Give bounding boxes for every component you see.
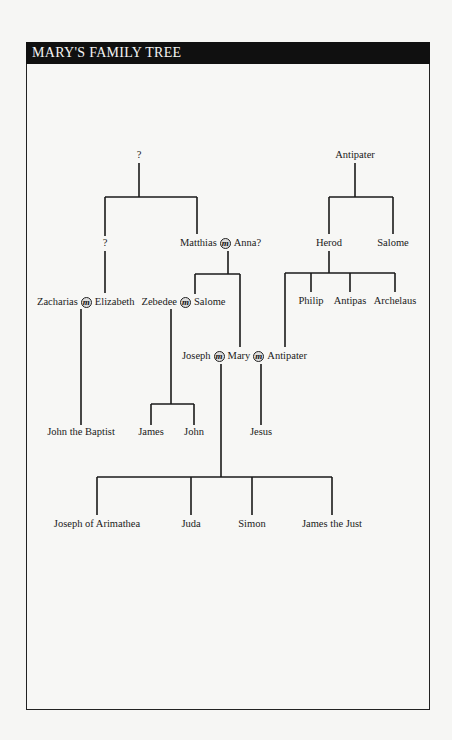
marriage-icon: m bbox=[81, 297, 92, 308]
node-archelaus: Archelaus bbox=[374, 295, 417, 307]
node-matthias: Matthias bbox=[180, 237, 217, 249]
node-john-the-baptist: John the Baptist bbox=[47, 426, 115, 438]
node-salome: Salome bbox=[194, 296, 226, 308]
node-anna: Anna? bbox=[234, 237, 261, 249]
marriage-icon: m bbox=[214, 351, 225, 362]
marriage-icon: m bbox=[253, 351, 264, 362]
node-joseph-of-arimathea: Joseph of Arimathea bbox=[54, 518, 140, 530]
node-james-the-just: James the Just bbox=[302, 518, 362, 530]
node-elizabeth: Elizabeth bbox=[95, 296, 135, 308]
node-zacharias: Zacharias bbox=[37, 296, 78, 308]
node-philip: Philip bbox=[298, 295, 323, 307]
marriage-icon: m bbox=[220, 238, 231, 249]
node-antipater-elder: Antipater bbox=[335, 149, 375, 161]
node-unknown-child: ? bbox=[103, 237, 108, 249]
node-jesus: Jesus bbox=[250, 426, 272, 438]
tree-connectors bbox=[0, 0, 452, 740]
node-mary: Mary bbox=[228, 350, 251, 362]
couple-joseph-mary-antipater: Joseph m Mary m Antipater bbox=[182, 350, 307, 362]
node-john: John bbox=[184, 426, 204, 438]
couple-matthias-anna: Matthias m Anna? bbox=[180, 237, 261, 249]
node-juda: Juda bbox=[181, 518, 200, 530]
node-herod: Herod bbox=[316, 237, 342, 249]
node-salome-sister: Salome bbox=[377, 237, 409, 249]
node-james: James bbox=[138, 426, 164, 438]
node-antipas: Antipas bbox=[334, 295, 367, 307]
node-zebedee: Zebedee bbox=[141, 296, 177, 308]
node-antipater-younger: Antipater bbox=[267, 350, 307, 362]
node-unknown-root: ? bbox=[137, 149, 142, 161]
couple-zacharias-elizabeth: Zacharias m Elizabeth Zebedee m Salome bbox=[37, 296, 226, 308]
node-simon: Simon bbox=[238, 518, 265, 530]
node-joseph: Joseph bbox=[182, 350, 211, 362]
marriage-icon: m bbox=[180, 297, 191, 308]
